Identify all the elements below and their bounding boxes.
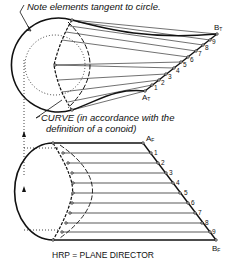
plane-director-caption: HRP = PLANE DIRECTOR xyxy=(52,250,154,260)
front-b-label: BF xyxy=(212,244,220,253)
svg-text:6: 6 xyxy=(190,56,194,63)
svg-text:3: 3 xyxy=(169,169,173,176)
svg-text:2: 2 xyxy=(161,79,165,86)
svg-text:2: 2 xyxy=(161,159,165,166)
svg-text:4: 4 xyxy=(176,179,180,186)
curve-label-line1: CURVE (in accordance with the xyxy=(41,112,174,123)
svg-text:7: 7 xyxy=(198,209,202,216)
top-b-label: BT xyxy=(214,23,222,32)
svg-text:9: 9 xyxy=(212,38,216,45)
front-a-label: AF xyxy=(146,134,154,143)
svg-text:9: 9 xyxy=(212,228,216,235)
svg-text:1: 1 xyxy=(154,149,158,156)
conoid-drawing: Note elements tangent to circle. CURVE (… xyxy=(0,0,227,260)
svg-text:3: 3 xyxy=(168,73,172,80)
svg-text:1: 1 xyxy=(154,84,158,91)
note-tangent-label: Note elements tangent to circle. xyxy=(27,1,161,12)
front-view xyxy=(15,131,218,241)
front-numbers: 12 34 56 78 9 xyxy=(154,149,216,235)
svg-text:7: 7 xyxy=(198,50,202,57)
svg-text:5: 5 xyxy=(183,61,187,68)
svg-text:5: 5 xyxy=(184,189,188,196)
svg-text:8: 8 xyxy=(205,44,209,51)
curve-label-line2: definition of a conoid) xyxy=(46,123,136,134)
top-view xyxy=(11,5,218,175)
svg-text:8: 8 xyxy=(205,219,209,226)
top-a-label: AT xyxy=(142,93,150,102)
svg-text:6: 6 xyxy=(191,199,195,206)
svg-text:4: 4 xyxy=(176,67,180,74)
